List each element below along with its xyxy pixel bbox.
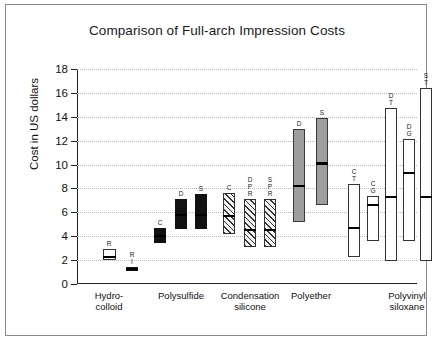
bar-code-label: C G (370, 180, 375, 194)
y-axis-title: Cost in US dollars (28, 78, 40, 170)
range-bar (385, 108, 397, 261)
x-axis (77, 283, 417, 284)
range-bar (403, 139, 415, 241)
bar-code-label: C (227, 184, 232, 191)
y-tick-label: 16 (55, 87, 68, 99)
y-tick-label: 14 (55, 111, 68, 123)
median-line (264, 229, 276, 231)
gridline (77, 93, 417, 94)
group-label: Condensation silicone (221, 290, 280, 312)
gridline (77, 69, 417, 70)
bar-code-label: R (107, 240, 112, 247)
y-tick (71, 236, 77, 237)
range-bar (348, 184, 360, 257)
median-line (348, 227, 360, 229)
gridline (77, 141, 417, 142)
range-bar (420, 88, 432, 261)
bar-code-label: D (179, 190, 184, 197)
median-line (175, 214, 187, 216)
bar-code-label: C (158, 219, 163, 226)
median-line (195, 214, 207, 216)
range-bar (195, 194, 207, 229)
y-tick (71, 260, 77, 261)
y-tick-label: 12 (55, 135, 68, 147)
bar-code-label: D G (406, 123, 411, 137)
range-bar (244, 199, 256, 247)
range-bar (264, 199, 276, 247)
bar-code-label: C T (352, 168, 357, 182)
bar-code-label: S (320, 109, 324, 116)
median-line (223, 215, 235, 217)
range-bar (223, 193, 235, 234)
range-bar (367, 196, 379, 241)
bar-code-label: D T (389, 92, 394, 106)
y-tick (71, 69, 77, 70)
median-line (154, 235, 166, 237)
bar-code-label: S (199, 185, 203, 192)
y-tick (71, 284, 77, 285)
y-tick (71, 212, 77, 213)
y-tick-label: 2 (62, 254, 68, 266)
y-axis (77, 69, 78, 284)
chart-title: Comparison of Full-arch Impression Costs (6, 23, 428, 38)
median-line (126, 268, 138, 270)
range-bar (293, 129, 305, 222)
median-line (316, 162, 328, 164)
y-tick (71, 141, 77, 142)
bar-code-label: D P R (248, 176, 253, 197)
y-tick-label: 4 (62, 230, 68, 242)
chart-frame: Comparison of Full-arch Impression Costs… (5, 4, 427, 336)
group-label: Polyether (291, 290, 331, 301)
gridline (77, 165, 417, 166)
y-tick-label: 6 (62, 206, 68, 218)
bar-code-label: S P R (268, 176, 273, 197)
y-tick (71, 117, 77, 118)
median-line (293, 185, 305, 187)
gridline (77, 117, 417, 118)
bar-code-label: S T (424, 72, 428, 86)
median-line (103, 256, 116, 258)
median-line (420, 196, 432, 198)
median-line (403, 172, 415, 174)
y-tick-label: 10 (55, 159, 68, 171)
group-label: Polyvinyl siloxane (388, 290, 426, 312)
y-tick (71, 188, 77, 189)
range-bar (103, 249, 116, 260)
median-line (385, 196, 397, 198)
median-line (367, 204, 379, 206)
y-tick-label: 18 (55, 63, 68, 75)
y-tick-label: 0 (62, 278, 68, 290)
gridline (77, 260, 417, 261)
y-tick (71, 93, 77, 94)
group-label: Polysulfide (158, 290, 204, 301)
bar-code-label: R I (130, 251, 135, 265)
plot-area: 024681012141618 RR ICDSCD P RS P RDSC TC… (77, 69, 417, 284)
group-label: Hydro- colloid (95, 290, 124, 312)
median-line (244, 229, 256, 231)
y-tick (71, 165, 77, 166)
bar-code-label: D (297, 120, 302, 127)
y-tick-label: 8 (62, 182, 68, 194)
